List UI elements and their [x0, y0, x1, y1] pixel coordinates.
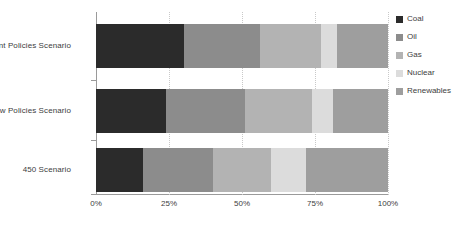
legend-swatch-icon [396, 52, 403, 59]
bar-segment-gas [245, 89, 312, 133]
legend-swatch-icon [396, 88, 403, 95]
bar-segment-coal [96, 89, 166, 133]
bar-segment-gas [260, 24, 321, 68]
legend-label: Gas [407, 51, 422, 59]
gridline-100 [388, 12, 389, 195]
x-tick-label: 50% [234, 199, 250, 208]
category-label: 450 Scenario [0, 165, 71, 174]
legend-item-nuclear[interactable]: Nuclear [396, 64, 451, 82]
y-axis-tick-1 [91, 140, 96, 141]
bar-segment-oil [184, 24, 260, 68]
bar-segment-oil [166, 89, 245, 133]
bar-segment-renewables [333, 89, 388, 133]
bar-segment-renewables [337, 24, 388, 68]
bar-segment-coal [96, 148, 143, 192]
legend-label: Nuclear [407, 69, 435, 77]
x-tick-label: 0% [90, 199, 102, 208]
legend-label: Oil [407, 33, 417, 41]
bar-row [96, 148, 388, 192]
y-axis-tick-2 [91, 194, 96, 195]
bar-segment-gas [213, 148, 271, 192]
bar-segment-nuclear [321, 24, 337, 68]
category-label: New Policies Scenario [0, 106, 71, 115]
legend-label: Renewables [407, 87, 451, 95]
bar-segment-oil [143, 148, 213, 192]
bar-row [96, 89, 388, 133]
y-axis-tick-0 [91, 80, 96, 81]
bar-segment-coal [96, 24, 184, 68]
legend-item-gas[interactable]: Gas [396, 46, 451, 64]
bar-segment-nuclear [312, 89, 332, 133]
x-tick-label: 100% [378, 199, 398, 208]
legend-label: Coal [407, 15, 423, 23]
legend-item-coal[interactable]: Coal [396, 10, 451, 28]
bar-segment-renewables [306, 148, 388, 192]
bar-row [96, 24, 388, 68]
legend-item-oil[interactable]: Oil [396, 28, 451, 46]
legend-swatch-icon [396, 34, 403, 41]
category-label: Current Policies Scenario [0, 41, 71, 50]
legend-swatch-icon [396, 70, 403, 77]
stacked-bar-chart: Current Policies ScenarioNew Policies Sc… [0, 0, 456, 227]
legend-swatch-icon [396, 16, 403, 23]
bar-segment-nuclear [271, 148, 306, 192]
legend-item-renewables[interactable]: Renewables [396, 82, 451, 100]
x-tick-label: 75% [307, 199, 323, 208]
x-tick-label: 25% [161, 199, 177, 208]
chart-legend: CoalOilGasNuclearRenewables [396, 10, 451, 100]
